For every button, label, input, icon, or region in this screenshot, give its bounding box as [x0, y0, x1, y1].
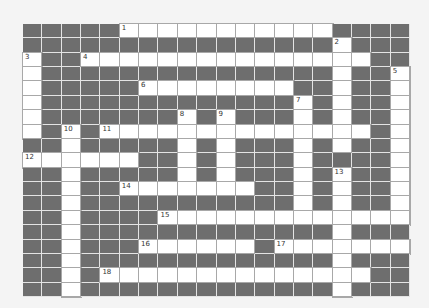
- crossword-cell[interactable]: [23, 67, 42, 81]
- crossword-cell[interactable]: [313, 211, 332, 225]
- crossword-cell[interactable]: [352, 125, 371, 139]
- crossword-cell[interactable]: [217, 24, 236, 38]
- crossword-cell[interactable]: [158, 125, 177, 139]
- crossword-cell[interactable]: [120, 125, 139, 139]
- crossword-cell[interactable]: [371, 240, 390, 254]
- crossword-cell[interactable]: [120, 268, 139, 282]
- crossword-cell[interactable]: [120, 53, 139, 67]
- crossword-cell[interactable]: [333, 53, 352, 67]
- crossword-cell[interactable]: [217, 240, 236, 254]
- crossword-cell[interactable]: [352, 53, 371, 67]
- crossword-cell[interactable]: [178, 153, 197, 167]
- crossword-cell[interactable]: [197, 125, 216, 139]
- crossword-cell[interactable]: [352, 268, 371, 282]
- crossword-cell[interactable]: [255, 81, 274, 95]
- crossword-cell[interactable]: [294, 168, 313, 182]
- crossword-cell[interactable]: [217, 139, 236, 153]
- crossword-cell[interactable]: [236, 81, 255, 95]
- crossword-cell[interactable]: [391, 81, 410, 95]
- crossword-cell[interactable]: [100, 153, 119, 167]
- crossword-cell[interactable]: [391, 168, 410, 182]
- crossword-cell[interactable]: [294, 110, 313, 124]
- crossword-cell[interactable]: 5: [391, 67, 410, 81]
- crossword-cell[interactable]: [217, 125, 236, 139]
- crossword-cell[interactable]: [23, 81, 42, 95]
- crossword-cell[interactable]: 4: [81, 53, 100, 67]
- crossword-cell[interactable]: [275, 53, 294, 67]
- crossword-cell[interactable]: [217, 211, 236, 225]
- crossword-cell[interactable]: [81, 153, 100, 167]
- crossword-cell[interactable]: [197, 182, 216, 196]
- crossword-cell[interactable]: [333, 81, 352, 95]
- crossword-cell[interactable]: [197, 240, 216, 254]
- crossword-cell[interactable]: [62, 182, 81, 196]
- crossword-cell[interactable]: [391, 139, 410, 153]
- crossword-cell[interactable]: [333, 283, 352, 297]
- crossword-cell[interactable]: [217, 53, 236, 67]
- crossword-cell[interactable]: [178, 211, 197, 225]
- crossword-cell[interactable]: [255, 53, 274, 67]
- crossword-cell[interactable]: [275, 211, 294, 225]
- crossword-cell[interactable]: [217, 268, 236, 282]
- crossword-cell[interactable]: [333, 96, 352, 110]
- crossword-cell[interactable]: [313, 240, 332, 254]
- crossword-cell[interactable]: [178, 168, 197, 182]
- crossword-cell[interactable]: [197, 24, 216, 38]
- crossword-cell[interactable]: [217, 81, 236, 95]
- crossword-cell[interactable]: [139, 24, 158, 38]
- crossword-cell[interactable]: [333, 67, 352, 81]
- crossword-cell[interactable]: 8: [178, 110, 197, 124]
- crossword-cell[interactable]: 11: [100, 125, 119, 139]
- crossword-cell[interactable]: [333, 182, 352, 196]
- crossword-cell[interactable]: [333, 240, 352, 254]
- crossword-cell[interactable]: [333, 125, 352, 139]
- crossword-cell[interactable]: [275, 125, 294, 139]
- crossword-cell[interactable]: [391, 153, 410, 167]
- crossword-cell[interactable]: [158, 81, 177, 95]
- crossword-cell[interactable]: [62, 268, 81, 282]
- crossword-cell[interactable]: [294, 24, 313, 38]
- crossword-cell[interactable]: 17: [275, 240, 294, 254]
- crossword-cell[interactable]: [158, 240, 177, 254]
- crossword-cell[interactable]: [294, 139, 313, 153]
- crossword-cell[interactable]: [178, 81, 197, 95]
- crossword-cell[interactable]: [62, 153, 81, 167]
- crossword-cell[interactable]: [294, 240, 313, 254]
- crossword-cell[interactable]: [197, 81, 216, 95]
- crossword-cell[interactable]: [197, 53, 216, 67]
- crossword-cell[interactable]: [236, 268, 255, 282]
- crossword-cell[interactable]: [333, 225, 352, 239]
- crossword-cell[interactable]: [197, 211, 216, 225]
- crossword-cell[interactable]: [217, 168, 236, 182]
- crossword-cell[interactable]: [352, 240, 371, 254]
- crossword-cell[interactable]: [62, 225, 81, 239]
- crossword-cell[interactable]: [158, 182, 177, 196]
- crossword-cell[interactable]: [333, 268, 352, 282]
- crossword-cell[interactable]: [391, 96, 410, 110]
- crossword-cell[interactable]: [294, 211, 313, 225]
- crossword-cell[interactable]: [178, 53, 197, 67]
- crossword-cell[interactable]: [333, 196, 352, 210]
- crossword-cell[interactable]: [255, 268, 274, 282]
- crossword-cell[interactable]: [62, 254, 81, 268]
- crossword-cell[interactable]: [294, 196, 313, 210]
- crossword-cell[interactable]: [236, 182, 255, 196]
- crossword-cell[interactable]: [178, 24, 197, 38]
- crossword-cell[interactable]: [158, 53, 177, 67]
- crossword-cell[interactable]: 10: [62, 125, 81, 139]
- crossword-cell[interactable]: [294, 268, 313, 282]
- crossword-cell[interactable]: [313, 24, 332, 38]
- crossword-cell[interactable]: [42, 153, 61, 167]
- crossword-cell[interactable]: [391, 211, 410, 225]
- crossword-cell[interactable]: [139, 268, 158, 282]
- crossword-cell[interactable]: [178, 240, 197, 254]
- crossword-cell[interactable]: 6: [139, 81, 158, 95]
- crossword-cell[interactable]: [294, 53, 313, 67]
- crossword-cell[interactable]: [217, 153, 236, 167]
- crossword-cell[interactable]: [275, 24, 294, 38]
- crossword-cell[interactable]: [62, 211, 81, 225]
- crossword-cell[interactable]: [62, 240, 81, 254]
- crossword-cell[interactable]: [275, 81, 294, 95]
- crossword-cell[interactable]: [178, 182, 197, 196]
- crossword-cell[interactable]: [62, 196, 81, 210]
